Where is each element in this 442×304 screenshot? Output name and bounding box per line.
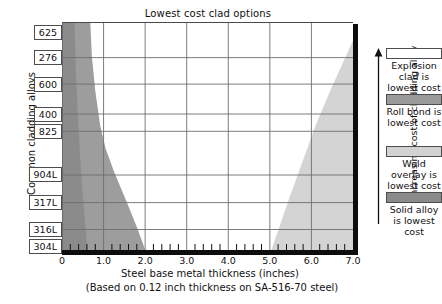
plot-regions-svg: [62, 22, 353, 252]
y-category-label-625: 625: [34, 25, 62, 40]
legend-entry-solid-alloy: Solid alloy is lowest cost: [386, 192, 442, 237]
x-tick-label: 4.0: [221, 255, 236, 266]
x-tick-label: 3.0: [179, 255, 194, 266]
x-axis-tick-labels: 01.02.03.04.05.06.07.0: [0, 255, 442, 269]
legend-label-weld-overlay: Weld overlay is lowest cost: [386, 158, 442, 191]
increasing-cost-arrow-icon: [374, 48, 383, 224]
y-category-label-400: 400: [34, 107, 62, 122]
y-category-label-316l: 316L: [29, 222, 62, 237]
plot-area: [62, 22, 353, 252]
y-category-label-276: 276: [34, 50, 62, 65]
legend-label-explosion: Explosion clad is lowest cost: [386, 60, 442, 93]
y-axis-category-labels: 625276600400825904L317L316L304L: [0, 0, 62, 304]
legend-label-solid-alloy: Solid alloy is lowest cost: [386, 204, 442, 237]
x-tick-label: 6.0: [304, 255, 319, 266]
y-category-label-304l: 304L: [29, 239, 62, 254]
plot-top-border: [62, 22, 353, 23]
legend-swatch-solid-alloy: [386, 192, 442, 203]
x-tick-label: 7.0: [345, 255, 360, 266]
y-category-label-904l: 904L: [29, 167, 62, 182]
page-title: Lowest cost clad options: [62, 8, 354, 19]
legend-swatch-roll-bond: [386, 94, 442, 105]
plot-right-border: [353, 24, 358, 254]
x-tick-label: 2.0: [138, 255, 153, 266]
legend-swatch-explosion: [386, 48, 442, 59]
y-category-label-825: 825: [34, 124, 62, 139]
legend: Increasing cost of cladding alloy Explos…: [362, 22, 442, 254]
legend-entry-roll-bond: Roll bond is lowest cost: [386, 94, 442, 128]
x-axis-minor-ticks: [62, 244, 354, 252]
y-category-label-317l: 317L: [29, 195, 62, 210]
x-axis-subtitle: (Based on 0.12 inch thickness on SA-516-…: [22, 282, 402, 293]
x-tick-label: 5.0: [262, 255, 277, 266]
legend-entry-explosion: Explosion clad is lowest cost: [386, 48, 442, 93]
y-category-label-600: 600: [34, 77, 62, 92]
legend-label-roll-bond: Roll bond is lowest cost: [386, 106, 442, 128]
plot-left-border: [62, 22, 63, 252]
x-tick-label: 1.0: [96, 255, 111, 266]
x-axis-title: Steel base metal thickness (inches): [62, 268, 358, 279]
legend-swatch-weld-overlay: [386, 146, 442, 157]
legend-entry-weld-overlay: Weld overlay is lowest cost: [386, 146, 442, 191]
